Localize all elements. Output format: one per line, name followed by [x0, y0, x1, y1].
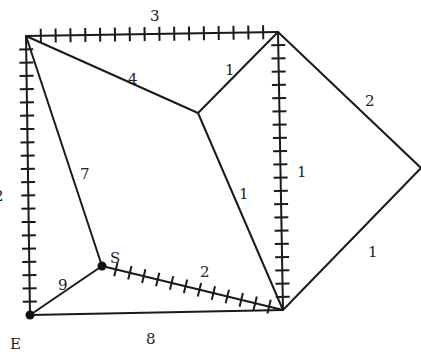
- edge-weight-label: 7: [80, 165, 90, 183]
- vertex-s: [98, 262, 107, 271]
- edge-b-f: [278, 32, 283, 310]
- edge-weight-label: 3: [150, 7, 160, 25]
- edge-weight-label: 4: [128, 70, 138, 88]
- graph-diagram: 341211172298SE: [0, 0, 421, 356]
- vertex-label-s: S: [110, 249, 120, 267]
- labels-layer: 341211172298SE: [0, 7, 378, 353]
- edge-weight-label: 2: [200, 263, 210, 281]
- edge-c-b: [198, 32, 278, 113]
- hatch-marks-layer: [19, 25, 290, 313]
- edge-weight-label: 1: [297, 163, 307, 181]
- edge-weight-label: 1: [239, 185, 249, 203]
- edge-weight-label: 2: [365, 92, 375, 110]
- edge-a-c: [26, 36, 198, 113]
- edge-weight-label: 9: [58, 276, 68, 294]
- vertex-e: [26, 311, 35, 320]
- edge-a-b: [26, 32, 278, 36]
- edge-weight-label: 2: [0, 187, 4, 205]
- edge-b-d: [278, 32, 421, 168]
- vertex-label-e: E: [10, 335, 21, 353]
- edge-a-s: [26, 36, 102, 266]
- edge-weight-label: 8: [146, 330, 156, 348]
- edge-weight-label: 1: [368, 243, 378, 261]
- graph-canvas: 341211172298SE: [0, 0, 421, 356]
- edge-c-f: [198, 113, 283, 310]
- edge-a-e: [26, 36, 30, 315]
- edge-weight-label: 1: [225, 61, 235, 79]
- edge-e-f: [30, 310, 283, 315]
- edge-d-f: [283, 168, 421, 310]
